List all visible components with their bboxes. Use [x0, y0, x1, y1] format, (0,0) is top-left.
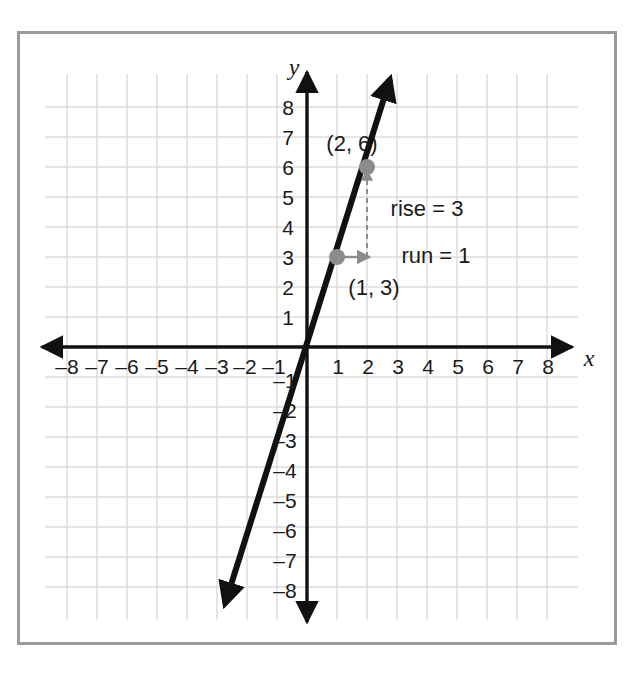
x-tick-label: 1	[332, 356, 344, 377]
y-tick-label: –8	[273, 580, 296, 601]
x-tick-label: –5	[145, 356, 168, 377]
point-label-2-6: (2, 6)	[326, 133, 377, 155]
x-tick-label: 3	[392, 356, 404, 377]
data-point-1-3	[329, 249, 345, 265]
y-axis-label: y	[289, 55, 300, 79]
x-tick-label: 6	[482, 356, 494, 377]
graph-figure: y x 8 7 6 5 4 3 2 1 –1 –2 –3 –4 –5 –6 –7…	[0, 0, 644, 674]
x-tick-label: –3	[205, 356, 228, 377]
y-tick-label: 7	[282, 127, 294, 148]
x-tick-label: 4	[422, 356, 434, 377]
x-tick-label: –7	[85, 356, 108, 377]
x-tick-label: –6	[115, 356, 138, 377]
y-tick-label: –4	[273, 460, 296, 481]
data-point-2-6	[359, 159, 375, 175]
x-tick-label: –4	[175, 356, 198, 377]
y-tick-label: 5	[282, 187, 294, 208]
y-tick-label: 3	[282, 247, 294, 268]
x-tick-label: 5	[452, 356, 464, 377]
rise-annotation: rise = 3	[391, 198, 464, 220]
x-tick-label: 7	[512, 356, 524, 377]
y-tick-label: –5	[273, 490, 296, 511]
y-tick-label: 6	[282, 157, 294, 178]
run-annotation: run = 1	[401, 245, 470, 267]
y-tick-label: 8	[282, 97, 294, 118]
x-tick-label: 2	[362, 356, 374, 377]
y-tick-label: –3	[273, 430, 296, 451]
y-tick-label: 2	[282, 277, 294, 298]
x-tick-label: 8	[542, 356, 554, 377]
coordinate-plane	[0, 0, 644, 674]
y-tick-label: –6	[273, 520, 296, 541]
y-tick-label: 4	[282, 217, 294, 238]
y-tick-label: –2	[273, 400, 296, 421]
x-tick-label: –8	[55, 356, 78, 377]
y-tick-label: 1	[282, 307, 294, 328]
x-axis-label: x	[584, 346, 595, 370]
x-tick-label: –2	[233, 356, 256, 377]
x-tick-label: –1	[262, 356, 285, 377]
y-tick-label: –7	[273, 550, 296, 571]
point-label-1-3: (1, 3)	[348, 277, 399, 299]
